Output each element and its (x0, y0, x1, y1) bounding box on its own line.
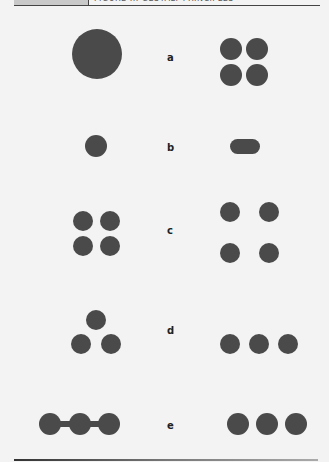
row-label-c: c (167, 225, 173, 236)
row-a-left-large-circle (72, 29, 122, 79)
row-e-left-connected (39, 413, 120, 435)
row-a-right-four-circles (220, 38, 268, 86)
footer-rule (14, 459, 318, 461)
row-label-a: a (167, 52, 174, 63)
row-label-e: e (167, 420, 174, 431)
row-b-left-small-circle (85, 135, 107, 157)
row-d-right-row (220, 334, 298, 354)
row-e-right-separate (227, 413, 307, 435)
row-label-b: b (167, 142, 174, 153)
gestalt-figure: a b c d e (0, 0, 329, 462)
row-label-d: d (167, 325, 174, 336)
row-c-left-tight-grid (73, 211, 120, 256)
row-b-right-pill (230, 139, 260, 154)
row-d-left-triangle (71, 310, 121, 354)
row-c-right-spaced-grid (220, 202, 279, 263)
